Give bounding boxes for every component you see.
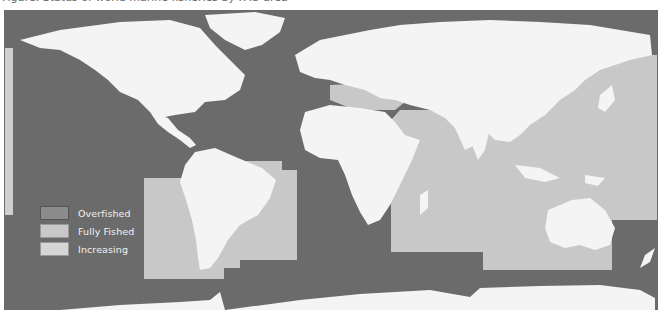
map-canvas	[4, 10, 658, 310]
map-legend: Overfished Fully Fished Increasing	[40, 204, 134, 258]
legend-swatch-increasing	[40, 242, 69, 256]
world-fisheries-map	[4, 10, 658, 310]
region-northeast-pacific-strip	[5, 48, 13, 215]
legend-label-increasing: Increasing	[78, 244, 128, 255]
legend-item-increasing: Increasing	[40, 240, 134, 258]
legend-item-overfished: Overfished	[40, 204, 134, 222]
legend-swatch-fully-fished	[40, 224, 69, 238]
figure-caption: Figure: Status of world marine fisheries…	[2, 0, 288, 4]
legend-label-fully-fished: Fully Fished	[78, 226, 134, 237]
legend-label-overfished: Overfished	[78, 208, 131, 219]
legend-item-fully-fished: Fully Fished	[40, 222, 134, 240]
legend-swatch-overfished	[40, 206, 69, 220]
